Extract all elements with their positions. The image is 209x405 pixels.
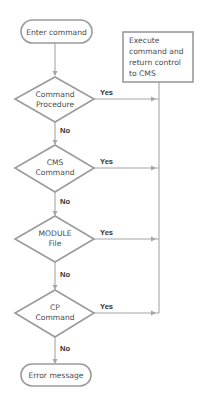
- decision-3-line-2: File: [49, 239, 62, 248]
- no-label-3: No: [60, 270, 70, 279]
- decision-2-line-2: Command: [35, 168, 74, 177]
- decision-module-file: MODULE File Yes No: [15, 216, 113, 279]
- decision-1-line-1: Command: [35, 90, 74, 99]
- arrow-right-icon: [151, 237, 156, 242]
- process-line-4: to CMS: [129, 69, 156, 78]
- yes-label-2: Yes: [100, 157, 113, 166]
- arrow-right-icon: [151, 166, 156, 171]
- no-label-2: No: [60, 197, 70, 206]
- decision-4-line-1: CP: [50, 303, 60, 312]
- arrow-right-icon: [151, 97, 156, 102]
- decision-1-line-2: Procedure: [36, 100, 74, 109]
- execute-process-node: Execute command and return control to CM…: [123, 32, 193, 82]
- error-message-node: Error message: [21, 364, 91, 386]
- process-line-3: return control: [129, 58, 181, 67]
- process-line-1: Execute: [129, 36, 160, 45]
- yes-label-4: Yes: [100, 302, 113, 311]
- decision-cms-command: CMS Command Yes No: [15, 145, 113, 206]
- yes-label-1: Yes: [100, 88, 113, 97]
- process-line-2: command and: [129, 47, 184, 56]
- decision-command-procedure: Command Procedure Yes No: [15, 77, 113, 135]
- arrow-down-icon: [53, 71, 58, 76]
- yes-label-3: Yes: [100, 228, 113, 237]
- decision-cp-command: CP Command Yes No: [15, 290, 113, 353]
- flowchart: Enter command Execute command and return…: [0, 0, 209, 405]
- decision-2-line-1: CMS: [47, 158, 64, 167]
- decision-3-line-1: MODULE: [39, 229, 72, 238]
- decision-4-line-2: Command: [35, 313, 74, 322]
- start-label: Enter command: [26, 28, 87, 37]
- arrow-right-icon: [151, 311, 156, 316]
- no-label-1: No: [60, 126, 70, 135]
- end-label: Error message: [28, 371, 83, 380]
- start-node: Enter command: [21, 20, 92, 43]
- no-label-4: No: [60, 344, 70, 353]
